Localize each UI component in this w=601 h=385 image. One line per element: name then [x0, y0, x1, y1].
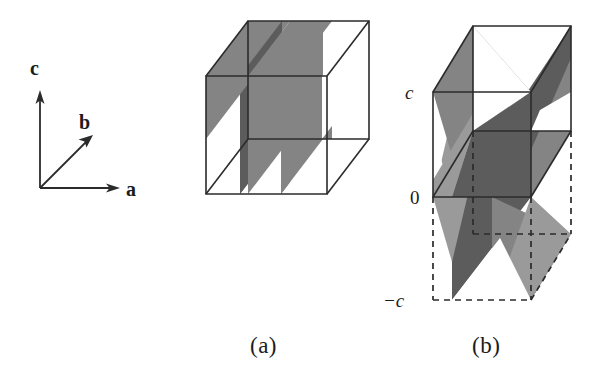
a-axis-arrow — [40, 184, 120, 193]
axis-label-a: a — [126, 178, 136, 200]
cell-b-label-origin: 0 — [410, 187, 420, 208]
c-axis-arrow — [36, 90, 45, 188]
unit-cell-a — [206, 21, 369, 194]
b-axis-arrow — [40, 135, 93, 188]
caption-b: (b) — [472, 333, 500, 359]
cell-b-label-c-bottom: −c — [383, 290, 405, 311]
axis-label-b: b — [79, 111, 90, 133]
unit-cell-b: c 0 −c — [383, 26, 571, 311]
figure-page: c b a — [0, 0, 601, 385]
cell-b-label-c-top: c — [405, 82, 414, 103]
axis-triad: c b a — [30, 57, 136, 200]
axis-label-c: c — [30, 57, 39, 79]
caption-a: (a) — [250, 333, 277, 359]
unit-cell-figure: c b a — [0, 0, 601, 385]
